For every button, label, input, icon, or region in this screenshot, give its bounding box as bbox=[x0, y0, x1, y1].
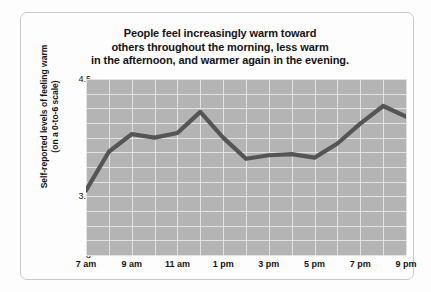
x-axis-tick-label: 3 pm bbox=[258, 259, 279, 269]
y-axis-label-line-2: (on a 0-to-6 scale) bbox=[49, 27, 60, 207]
y-axis-label-line-1: Self-reported levels of feeling warm bbox=[39, 27, 50, 207]
warmth-line-series bbox=[86, 79, 406, 255]
x-axis-tick-labels: 7 am9 am11 am1 pm3 pm5 pm7 pm9 pm bbox=[86, 259, 406, 275]
horizontal-gridline bbox=[86, 255, 406, 256]
x-axis-tick-label: 11 am bbox=[165, 259, 190, 269]
vertical-gridline bbox=[406, 79, 407, 255]
x-axis-tick-label: 9 am bbox=[121, 259, 142, 269]
plot-area bbox=[86, 79, 406, 255]
chart-title-line-2: others throughout the morning, less warm bbox=[55, 41, 385, 55]
series-polyline bbox=[86, 106, 406, 190]
chart-title: People feel increasingly warm toward oth… bbox=[55, 27, 385, 68]
chart-title-line-1: People feel increasingly warm toward bbox=[55, 27, 385, 41]
x-axis-tick-label: 7 am bbox=[76, 259, 97, 269]
x-axis-tick-label: 9 pm bbox=[395, 259, 416, 269]
x-axis-tick-label: 1 pm bbox=[213, 259, 234, 269]
chart-title-line-3: in the afternoon, and warmer again in th… bbox=[55, 54, 385, 68]
chart-card: People feel increasingly warm toward oth… bbox=[20, 12, 414, 280]
y-axis-label: Self-reported levels of feeling warm (on… bbox=[39, 27, 60, 207]
x-axis-tick-label: 5 pm bbox=[304, 259, 325, 269]
x-axis-tick-label: 7 pm bbox=[350, 259, 371, 269]
